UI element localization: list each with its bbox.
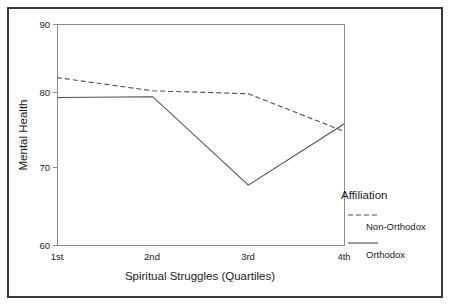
chart-figure: 90 80 70 60 Mental Health 1st 2nd 3rd 4t… — [0, 0, 451, 306]
legend-label-non-orthodox: Non-Orthodox — [366, 221, 426, 232]
x-axis-title: Spiritual Struggles (Quartiles) — [125, 270, 275, 282]
y-tick-label-90: 90 — [39, 19, 50, 30]
series-line-non-orthodox — [57, 78, 344, 132]
x-tick-label-3rd: 3rd — [241, 251, 255, 262]
line-chart: 90 80 70 60 Mental Health 1st 2nd 3rd 4t… — [0, 0, 451, 306]
y-tick-label-70: 70 — [39, 162, 50, 173]
y-tick-label-60: 60 — [39, 240, 50, 251]
plot-frame — [58, 25, 345, 246]
y-axis-title: Mental Health — [17, 100, 29, 171]
legend-label-orthodox: Orthodox — [366, 249, 405, 260]
legend-title: Affiliation — [341, 189, 387, 201]
y-tick-label-80: 80 — [39, 87, 50, 98]
series-line-orthodox — [57, 97, 344, 185]
x-tick-label-2nd: 2nd — [144, 251, 160, 262]
x-tick-label-4th: 4th — [337, 251, 350, 262]
x-tick-label-1st: 1st — [51, 251, 64, 262]
